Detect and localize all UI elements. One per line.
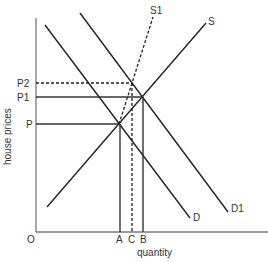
label-c: C xyxy=(128,234,135,245)
supply-curve-s1 xyxy=(119,17,153,124)
label-s: S xyxy=(208,16,215,27)
label-b: B xyxy=(140,234,147,245)
label-a: A xyxy=(116,234,123,245)
label-d1: D1 xyxy=(231,203,244,214)
supply-curve-s xyxy=(47,23,206,207)
supply-demand-diagram: P2 P1 P A C B O S1 S D D1 quantity house… xyxy=(0,0,268,262)
label-p1: P1 xyxy=(17,92,30,103)
origin-label: O xyxy=(27,234,35,245)
demand-curve-d xyxy=(45,25,190,218)
label-d: D xyxy=(193,212,200,223)
diagram-canvas: P2 P1 P A C B O S1 S D D1 quantity house… xyxy=(0,0,268,262)
label-p2: P2 xyxy=(17,78,30,89)
x-axis-title: quantity xyxy=(137,247,172,258)
label-s1: S1 xyxy=(150,5,163,16)
y-axis-title: house prices xyxy=(2,108,13,165)
demand-curve-d1 xyxy=(80,13,228,212)
label-p: P xyxy=(26,119,33,130)
